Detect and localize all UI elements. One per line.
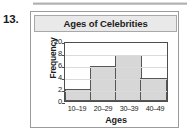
y-axis-tick-mark	[62, 43, 65, 44]
plot-area-wrapper: Frequency 0246810 10–1920–2930–3940–49 A…	[34, 34, 177, 126]
x-axis-label: Ages	[64, 115, 168, 125]
bar	[90, 66, 117, 101]
bar-series	[65, 43, 167, 101]
gridline	[65, 55, 167, 56]
y-axis-tick-labels: 0246810	[48, 42, 62, 102]
x-axis-tick-labels: 10–1920–2930–3940–49	[64, 104, 168, 113]
y-axis-tick-label: 8	[58, 50, 62, 58]
y-axis-tick-label: 2	[58, 86, 62, 94]
y-axis-tick-mark	[62, 79, 65, 80]
gridline	[65, 67, 167, 68]
x-axis-tick-label: 30–39	[116, 104, 142, 113]
question-number: 13.	[3, 13, 18, 25]
gridline	[65, 79, 167, 80]
chart-axes-frame	[64, 42, 168, 102]
x-axis-tick-label: 10–19	[64, 104, 90, 113]
y-axis-tick-label: 0	[58, 98, 62, 106]
gridline	[65, 91, 167, 92]
figure-clipping: 13. Ages of Celebrities Frequency 024681…	[0, 0, 187, 138]
y-axis-tick-label: 6	[58, 62, 62, 70]
y-axis-tick-mark	[62, 91, 65, 92]
bar	[140, 78, 167, 101]
y-axis-tick-label: 10	[54, 38, 62, 46]
x-axis-tick-label: 40–49	[142, 104, 168, 113]
y-axis-tick-mark	[62, 67, 65, 68]
chart-title: Ages of Celebrities	[34, 15, 177, 32]
bar	[115, 55, 142, 101]
y-axis-tick-label: 4	[58, 74, 62, 82]
page-rule-divider	[33, 2, 187, 5]
chart-figure-box: Ages of Celebrities Frequency 0246810 10…	[30, 11, 179, 128]
y-axis-tick-mark	[62, 55, 65, 56]
x-axis-tick-label: 20–29	[90, 104, 116, 113]
